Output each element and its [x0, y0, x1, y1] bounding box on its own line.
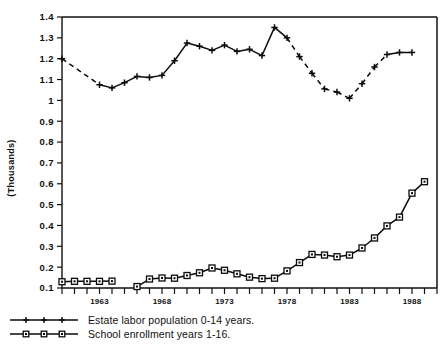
data-point-marker-plus	[196, 43, 202, 49]
data-point-marker-plus	[134, 73, 140, 79]
data-point-marker-square	[347, 252, 353, 258]
y-axis-tick-label: 0.4	[40, 220, 55, 231]
series-segment	[175, 43, 188, 61]
data-point-marker-square	[59, 279, 65, 285]
data-point-marker-square	[284, 268, 290, 274]
legend-label-school-enrollment: School enrollment years 1-16.	[88, 328, 230, 340]
data-point-marker-plus	[121, 79, 127, 85]
series-segment	[287, 38, 300, 57]
line-chart: (Thousands) 1.41.31.21.110.90.80.70.60.5…	[0, 0, 444, 347]
series-segment	[275, 27, 288, 37]
x-axis-tick-label: 1988	[403, 297, 422, 306]
data-point-marker-plus	[146, 74, 152, 80]
x-axis-tick-label: 1978	[278, 297, 297, 306]
series-estate-labor-markers	[59, 24, 415, 101]
data-point-marker-square	[59, 331, 65, 337]
y-axis-tick-label: 0.5	[40, 199, 55, 210]
series-segment	[225, 45, 238, 51]
series-segment	[312, 73, 325, 89]
y-axis-tick-label: 0.1	[40, 282, 55, 293]
data-point-marker-square	[109, 278, 115, 284]
series-segment	[112, 83, 125, 88]
y-axis-tick-label: 0.6	[40, 178, 54, 189]
data-point-marker-square	[97, 278, 103, 284]
data-point-marker-square	[134, 284, 140, 290]
data-point-marker-square	[397, 214, 403, 220]
data-point-marker-square	[372, 235, 378, 241]
data-point-marker-plus	[321, 86, 327, 92]
y-axis-tick-label: 0.7	[40, 157, 54, 168]
series-segment	[262, 27, 275, 55]
series-segment	[337, 92, 350, 98]
data-point-marker-square	[309, 251, 315, 257]
series-segment	[250, 49, 263, 55]
series-segment	[212, 45, 225, 50]
y-axis-tick-label: 1.4	[40, 11, 55, 22]
plot-frame	[62, 17, 437, 288]
data-point-marker-plus	[209, 47, 215, 53]
series-segment	[125, 76, 138, 82]
data-point-marker-plus	[109, 85, 115, 91]
data-point-marker-plus	[246, 46, 252, 52]
data-point-marker-square	[159, 275, 165, 281]
series-segment	[300, 57, 313, 74]
data-point-marker-plus	[41, 317, 47, 323]
y-axis-title-group: (Thousands)	[6, 139, 16, 196]
data-point-marker-square	[209, 265, 215, 271]
legend-entry-estate-labor: Estate labor population 0-14 years.	[10, 314, 254, 326]
x-axis-tick-label: 1968	[153, 297, 172, 306]
data-point-marker-square	[23, 331, 29, 337]
data-point-marker-plus	[234, 48, 240, 54]
x-axis-tick-label: 1963	[90, 297, 109, 306]
series-segment	[62, 59, 100, 85]
y-axis-tick-label: 1.1	[40, 74, 55, 85]
x-axis-tick-label: 1973	[215, 297, 234, 306]
data-point-marker-plus	[259, 52, 265, 58]
data-point-marker-plus	[396, 49, 402, 55]
data-point-marker-square	[334, 254, 340, 260]
data-point-marker-plus	[384, 51, 390, 57]
data-point-marker-square	[322, 252, 328, 258]
data-point-marker-square	[259, 276, 265, 282]
x-axis-tick-marks	[62, 288, 437, 294]
data-point-marker-plus	[96, 82, 102, 88]
data-point-marker-square	[184, 272, 190, 278]
data-point-marker-square	[84, 278, 90, 284]
series-segment	[350, 84, 363, 99]
data-point-marker-square	[247, 274, 253, 280]
data-point-marker-plus	[409, 49, 415, 55]
data-point-marker-square	[384, 223, 390, 229]
series-segment	[362, 67, 375, 84]
data-point-marker-square	[422, 179, 428, 185]
y-axis-tick-label: 1	[48, 95, 54, 106]
data-point-marker-square	[359, 245, 365, 251]
legend: Estate labor population 0-14 years. Scho…	[10, 314, 254, 340]
data-point-marker-square	[272, 275, 278, 281]
legend-label-estate-labor: Estate labor population 0-14 years.	[88, 314, 254, 326]
legend-swatch-markers-school-enrollment	[23, 331, 65, 337]
data-point-marker-square	[147, 276, 153, 282]
data-point-marker-square	[197, 270, 203, 276]
x-axis-tick-labels: 196319681973197819831988	[90, 297, 421, 306]
series-school-enrollment-line	[62, 182, 425, 287]
series-segment	[162, 61, 175, 76]
y-axis-title: (Thousands)	[6, 139, 16, 196]
y-axis-tick-label: 1.3	[40, 32, 54, 43]
y-axis-tick-label: 1.2	[40, 53, 54, 64]
chart-container: (Thousands) 1.41.31.21.110.90.80.70.60.5…	[0, 0, 444, 347]
y-axis-tick-label: 0.8	[40, 136, 54, 147]
data-point-marker-plus	[23, 317, 29, 323]
series-segment	[375, 55, 388, 68]
legend-entry-school-enrollment: School enrollment years 1-16.	[10, 328, 230, 340]
data-point-marker-square	[172, 275, 178, 281]
data-point-marker-square	[41, 331, 47, 337]
data-point-marker-plus	[334, 89, 340, 95]
data-point-marker-square	[234, 271, 240, 277]
data-point-marker-plus	[59, 317, 65, 323]
data-point-marker-square	[72, 278, 78, 284]
y-axis-tick-labels: 1.41.31.21.110.90.80.70.60.50.40.30.20.1	[40, 11, 55, 293]
data-point-marker-plus	[221, 42, 227, 48]
y-axis-tick-label: 0.3	[40, 241, 54, 252]
x-axis-tick-label: 1983	[340, 297, 359, 306]
data-point-marker-square	[409, 190, 415, 196]
